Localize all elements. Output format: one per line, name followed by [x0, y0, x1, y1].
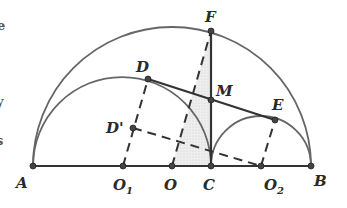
point-C [208, 163, 214, 169]
point-D [145, 76, 151, 82]
label-C: C [203, 176, 215, 194]
label-E: E [271, 96, 284, 114]
edge-text-fragment-1: e [0, 18, 5, 33]
large-semicircle-arc [33, 27, 311, 166]
label-M: M [215, 82, 233, 100]
point-O2 [258, 163, 264, 169]
label-D: D [135, 58, 149, 76]
label-O1: O1 [113, 176, 133, 196]
dashed-O2-E [261, 120, 275, 166]
edge-text-fragment-2: y [0, 94, 4, 109]
edge-text-fragment-3: s [0, 133, 3, 148]
dashed-O1-D [123, 79, 148, 166]
point-F [208, 28, 214, 34]
label-O: O [164, 176, 177, 194]
point-A [30, 163, 36, 169]
point-E [272, 117, 278, 123]
label-O2: O2 [264, 176, 284, 196]
point-M [208, 97, 214, 103]
point-B [308, 163, 314, 169]
label-F: F [204, 8, 217, 26]
right-semicircle-arc [211, 116, 311, 166]
point-O [169, 163, 175, 169]
label-D-prime: D' [105, 119, 124, 137]
point-O1 [120, 163, 126, 169]
point-D-prime [130, 125, 136, 131]
label-A: A [14, 174, 28, 192]
geometry-diagram: A B C O O1 O2 F D E M D' e y s [0, 0, 347, 208]
label-B: B [313, 172, 327, 190]
